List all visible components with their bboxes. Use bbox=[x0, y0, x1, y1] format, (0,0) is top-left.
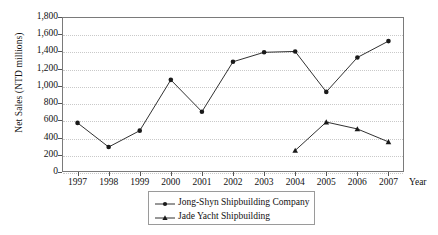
chart-legend: Jong-Shyn Shipbuilding Company Jade Yach… bbox=[148, 191, 315, 225]
data-point-marker bbox=[323, 119, 329, 124]
series-line-0 bbox=[78, 41, 389, 147]
data-point-marker bbox=[106, 145, 111, 150]
data-point-marker bbox=[137, 128, 142, 133]
data-point-marker bbox=[386, 139, 392, 144]
y-tick-label: 1,000 bbox=[16, 80, 58, 90]
x-tick-label: 2007 bbox=[366, 177, 410, 187]
data-point-marker bbox=[355, 55, 360, 60]
legend-marker-circle-icon bbox=[154, 196, 176, 208]
x-tick-mark bbox=[140, 172, 141, 176]
y-tick-label: 1,600 bbox=[16, 28, 58, 38]
data-point-marker bbox=[75, 121, 80, 126]
legend-item-1: Jade Yacht Shipbuilding bbox=[154, 209, 314, 222]
legend-marker-triangle-icon bbox=[154, 210, 176, 222]
y-tick-label: 1,200 bbox=[16, 63, 58, 73]
x-tick-mark bbox=[109, 172, 110, 176]
data-point-marker bbox=[293, 49, 298, 54]
y-tick-label: 400 bbox=[16, 132, 58, 142]
data-point-marker bbox=[169, 78, 174, 83]
y-tick-label: 800 bbox=[16, 97, 58, 107]
chart-figure: Net Sales (NTD millions) 02004006008001,… bbox=[0, 0, 438, 235]
y-tick-label: 600 bbox=[16, 114, 58, 124]
x-tick-mark bbox=[233, 172, 234, 176]
series-line-1 bbox=[295, 122, 388, 150]
x-axis-title: Year bbox=[409, 177, 427, 187]
x-tick-mark bbox=[264, 172, 265, 176]
data-point-marker bbox=[324, 90, 329, 95]
y-tick-label: 0 bbox=[16, 166, 58, 176]
data-series-layer bbox=[62, 17, 404, 172]
x-tick-mark bbox=[202, 172, 203, 176]
legend-item-0: Jong-Shyn Shipbuilding Company bbox=[154, 195, 314, 208]
legend-label-1: Jade Yacht Shipbuilding bbox=[176, 211, 270, 221]
data-point-marker bbox=[386, 39, 391, 44]
y-tick-label: 1,400 bbox=[16, 45, 58, 55]
x-tick-mark bbox=[78, 172, 79, 176]
data-point-marker bbox=[200, 109, 205, 114]
x-tick-mark bbox=[326, 172, 327, 176]
x-tick-mark bbox=[295, 172, 296, 176]
legend-label-0: Jong-Shyn Shipbuilding Company bbox=[176, 197, 309, 207]
data-point-marker bbox=[231, 59, 236, 64]
y-tick-label: 200 bbox=[16, 149, 58, 159]
x-axis-ticks: 1997199819992000200120022003200420052006… bbox=[62, 172, 404, 192]
data-point-marker bbox=[262, 50, 267, 55]
x-tick-mark bbox=[388, 172, 389, 176]
y-tick-label: 1,800 bbox=[16, 11, 58, 21]
x-tick-mark bbox=[171, 172, 172, 176]
x-tick-mark bbox=[357, 172, 358, 176]
y-axis-ticks: 02004006008001,0001,2001,4001,6001,800 bbox=[0, 17, 58, 172]
